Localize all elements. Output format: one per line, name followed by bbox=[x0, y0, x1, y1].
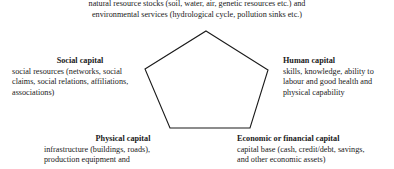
pentagon-asset-diagram: natural resource stocks (soil, water, ai… bbox=[0, 0, 394, 169]
physical-capital-description: infrastructure (buildings, roads), produ… bbox=[44, 145, 184, 166]
human-capital-line-2: labour and good health and bbox=[283, 77, 394, 88]
human-capital-heading: Human capital bbox=[283, 56, 394, 67]
social-capital-line-3: associations) bbox=[12, 88, 144, 99]
pentagon-outline bbox=[145, 31, 268, 128]
economic-capital-label: Economic or financial capital capital ba… bbox=[237, 134, 394, 166]
human-capital-label: Human capital skills, knowledge, ability… bbox=[283, 56, 394, 98]
social-capital-heading: Social capital bbox=[4, 56, 144, 67]
economic-capital-line-2: and other economic assets) bbox=[237, 155, 394, 166]
economic-capital-line-1: capital base (cash, credit/debt, savings… bbox=[237, 145, 394, 156]
human-capital-line-1: skills, knowledge, ability to bbox=[283, 67, 394, 78]
physical-capital-line-2: production equipment and bbox=[44, 155, 184, 166]
physical-capital-line-1: infrastructure (buildings, roads), bbox=[44, 145, 184, 156]
natural-capital-line-2: environmental services (hydrological cyc… bbox=[47, 10, 347, 21]
natural-capital-description: natural resource stocks (soil, water, ai… bbox=[47, 0, 347, 20]
economic-capital-heading: Economic or financial capital bbox=[237, 134, 394, 145]
natural-capital-line-1: natural resource stocks (soil, water, ai… bbox=[47, 0, 347, 10]
social-capital-line-1: social resources (networks, social bbox=[12, 67, 144, 78]
physical-capital-label: Physical capital infrastructure (buildin… bbox=[44, 134, 184, 166]
social-capital-line-2: claims, social relations, affiliations, bbox=[12, 77, 144, 88]
human-capital-line-3: physical capability bbox=[283, 88, 394, 99]
natural-capital-label: natural resource stocks (soil, water, ai… bbox=[47, 0, 347, 20]
social-capital-label: Social capital social resources (network… bbox=[4, 56, 144, 98]
social-capital-description: social resources (networks, social claim… bbox=[4, 67, 144, 99]
economic-capital-description: capital base (cash, credit/debt, savings… bbox=[237, 145, 394, 166]
human-capital-description: skills, knowledge, ability to labour and… bbox=[283, 67, 394, 99]
physical-capital-heading: Physical capital bbox=[44, 134, 184, 145]
